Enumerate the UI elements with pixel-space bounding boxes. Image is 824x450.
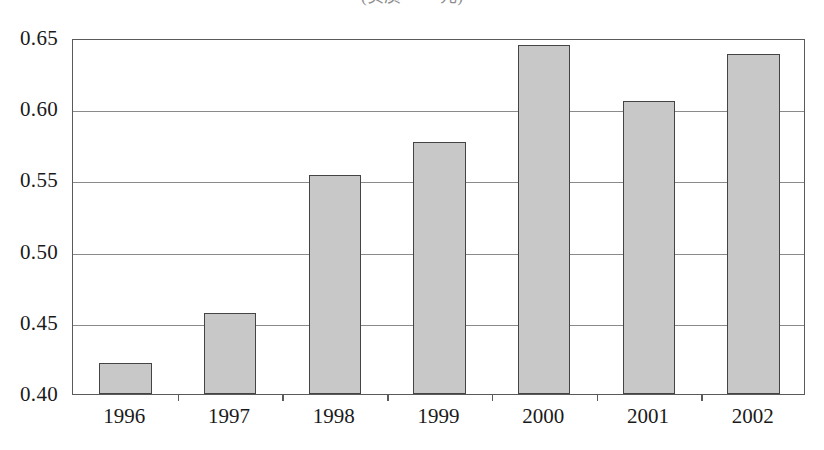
y-tick-label: 0.50 (20, 242, 58, 263)
y-tick-label: 0.65 (20, 28, 58, 49)
x-tick-label: 1998 (313, 404, 355, 428)
x-axis-tick (282, 394, 284, 401)
x-tick-label: 2002 (732, 404, 774, 428)
x-axis-tick (597, 394, 599, 401)
x-axis-tick (178, 394, 180, 401)
y-tick-label: 0.45 (20, 313, 58, 334)
chart-caption-cropped: (实质 · 元) (0, 0, 824, 13)
x-tick-label: 2001 (627, 404, 669, 428)
bar (204, 313, 256, 394)
y-tick-label: 0.55 (20, 170, 58, 191)
bar (727, 54, 779, 394)
bar (309, 175, 361, 394)
x-tick-label: 2000 (522, 404, 564, 428)
x-axis-tick (701, 394, 703, 401)
y-tick-label: 0.40 (20, 384, 58, 405)
plot-area (72, 39, 805, 395)
bar-chart-figure: (实质 · 元) 0.650.600.550.500.450.40 199619… (0, 0, 824, 450)
y-tick-label: 0.60 (20, 99, 58, 120)
bar (623, 101, 675, 394)
x-axis-tick (387, 394, 389, 401)
x-axis-tick (492, 394, 494, 401)
bar (518, 45, 570, 394)
bar (99, 363, 151, 394)
x-axis: 1996199719981999200020012002 (72, 404, 805, 436)
x-tick-label: 1996 (103, 404, 145, 428)
bars-group (73, 40, 804, 394)
x-tick-label: 1999 (418, 404, 460, 428)
chart-caption-text: (实质 · 元) (0, 0, 824, 7)
x-tick-label: 1997 (208, 404, 250, 428)
bar (413, 142, 465, 394)
y-axis: 0.650.600.550.500.450.40 (0, 0, 68, 450)
